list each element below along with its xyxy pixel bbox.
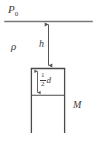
depth-symbol-d: d xyxy=(47,76,52,85)
depth-label: h xyxy=(39,39,44,49)
ambient-pressure-symbol: P xyxy=(8,3,15,15)
ambient-pressure-subscript: 0 xyxy=(15,10,19,18)
half-depth-label: 1 2 d xyxy=(40,72,51,88)
fluid-density-label: ρ xyxy=(11,41,16,52)
fraction-denominator: 2 xyxy=(40,81,46,88)
fluid-statics-figure: P0 ρ h M 1 2 d xyxy=(0,0,96,147)
one-half-fraction: 1 2 xyxy=(40,72,46,88)
block-mass-label: M xyxy=(73,100,81,110)
ambient-pressure-label: P0 xyxy=(8,4,18,18)
fraction-numerator: 1 xyxy=(40,72,46,79)
